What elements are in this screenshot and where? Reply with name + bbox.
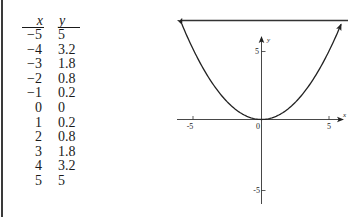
y-tick-label-neg5: -5 xyxy=(253,186,260,195)
x-tick-label-pos5: 5 xyxy=(327,122,331,131)
y-tick-label-pos5: 5 xyxy=(255,47,259,56)
x-tick-label-neg5: -5 xyxy=(187,122,194,131)
parabola-graph: -5 5 0 5 -5 y x xyxy=(0,0,353,217)
x-axis-label: x xyxy=(342,111,347,119)
origin-label: 0 xyxy=(256,122,260,131)
y-axis-label: y xyxy=(266,36,271,44)
